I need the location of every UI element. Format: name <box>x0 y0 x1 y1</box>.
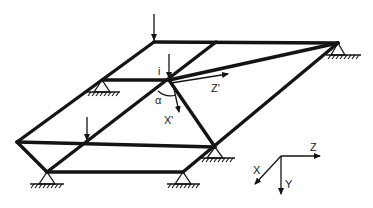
beam-i-to-right-node <box>169 80 215 147</box>
beam-inner-diagonal <box>47 42 216 172</box>
support-bottom-mid <box>167 172 200 188</box>
grillage-diagram: i α Z' X' Z X Y <box>0 0 373 208</box>
label-angle-alpha: α <box>155 94 162 106</box>
support-bottom-left <box>30 172 64 188</box>
beam-middle-horizontal <box>17 142 215 147</box>
beam-top-edge <box>154 42 338 43</box>
beam-i-to-corner <box>169 43 338 80</box>
label-global-z: Z <box>310 141 317 153</box>
structure-drawing: i α Z' X' Z X Y <box>0 0 373 208</box>
label-local-z: Z' <box>211 82 220 94</box>
beam-left-short <box>17 142 47 172</box>
label-local-x: X' <box>164 114 173 126</box>
point-loads <box>87 14 169 140</box>
label-node-i: i <box>158 65 160 77</box>
beam-left-edge <box>17 42 154 142</box>
label-global-y: Y <box>285 178 293 190</box>
label-global-x: X <box>253 164 261 176</box>
